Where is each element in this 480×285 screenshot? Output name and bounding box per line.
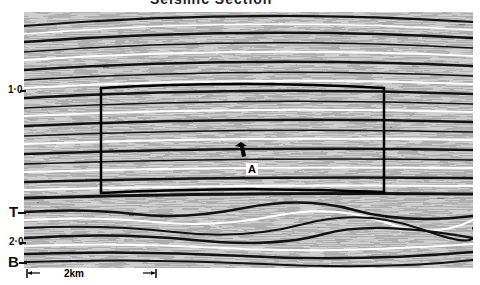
- time-tick: [20, 90, 26, 92]
- marker-a-label: A: [246, 163, 258, 175]
- scale-bar: [26, 268, 161, 280]
- time-tick: [20, 242, 26, 244]
- seismic-reflectors: [24, 12, 473, 268]
- figure-title: Seismic Section: [150, 0, 272, 7]
- seismic-figure: Seismic Section: [0, 0, 480, 285]
- scale-bar-label: 2km: [64, 268, 84, 279]
- seismic-section: [24, 12, 473, 268]
- horizon-label-b: B: [8, 253, 19, 270]
- horizon-label-t: T: [9, 203, 18, 220]
- horizon-tick: [18, 212, 26, 214]
- horizon-tick: [19, 262, 27, 264]
